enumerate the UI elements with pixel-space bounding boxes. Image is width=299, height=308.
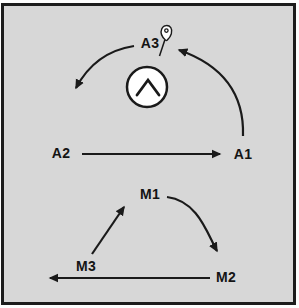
node-a2: A2 (52, 145, 70, 161)
edge-m1-to-m2 (167, 197, 217, 251)
node-a3: A3 (141, 35, 159, 51)
node-a1: A1 (234, 146, 252, 162)
diagram-stage: A3 A2 A1 M1 M3 M2 (0, 0, 299, 308)
edge-a3-to-a2 (76, 46, 134, 88)
edge-a1-to-a3 (179, 50, 243, 136)
node-m1: M1 (140, 186, 160, 202)
edge-m3-to-m1 (92, 207, 124, 254)
pin-icon (160, 26, 172, 56)
node-m3: M3 (76, 258, 96, 274)
node-m2: M2 (216, 269, 236, 285)
circle-chevron-icon (127, 67, 167, 107)
